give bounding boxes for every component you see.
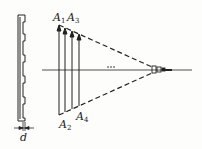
grating	[18, 15, 25, 121]
diagram: d A1 A3 A2 A4	[0, 0, 202, 149]
focal-elements	[152, 66, 172, 73]
d-dimension	[14, 122, 34, 131]
label-A2: A2	[58, 118, 71, 132]
label-A4: A4	[75, 110, 89, 124]
d-label: d	[20, 131, 27, 144]
label-A3: A3	[66, 11, 79, 25]
label-A1: A1	[52, 11, 65, 25]
diagram-svg: d A1 A3 A2 A4	[0, 0, 202, 149]
ellipsis	[107, 66, 115, 68]
